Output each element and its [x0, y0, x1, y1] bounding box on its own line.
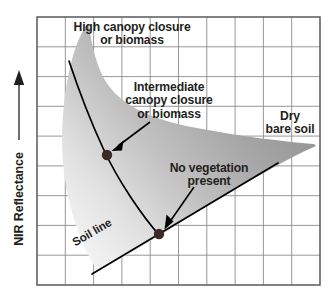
- annotation-dry-bare-soil: Dry bare soil: [258, 110, 322, 137]
- intermediate-canopy-point[interactable]: [102, 150, 112, 160]
- annotation-no-vegetation: No vegetation present: [158, 162, 260, 189]
- annotation-intermediate-canopy: Intermediate canopy closure or biomass: [112, 81, 226, 121]
- annotation-high-canopy: High canopy closure or biomass: [66, 21, 198, 48]
- no-vegetation-point[interactable]: [154, 229, 164, 239]
- soil-line-diagram: NIR Reflectance: [0, 0, 333, 289]
